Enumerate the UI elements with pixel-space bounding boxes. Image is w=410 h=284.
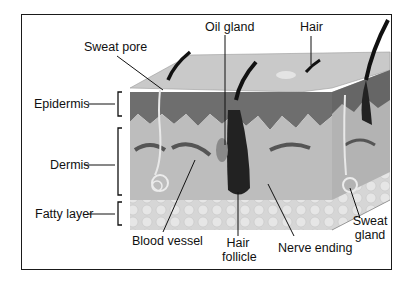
fatty-layer bbox=[130, 200, 332, 230]
label-hair-follicle: Hair follicle bbox=[222, 236, 254, 264]
label-sweat-pore: Sweat pore bbox=[84, 40, 147, 54]
label-dermis: Dermis bbox=[50, 158, 90, 172]
label-sweat-gland: Sweat gland bbox=[352, 214, 388, 242]
label-epidermis: Epidermis bbox=[34, 97, 90, 111]
label-blood-vessel: Blood vessel bbox=[132, 234, 203, 248]
label-hair: Hair bbox=[300, 20, 323, 34]
label-oil-gland: Oil gland bbox=[205, 20, 254, 34]
label-fatty-layer: Fatty layer bbox=[35, 207, 93, 221]
label-nerve-ending: Nerve ending bbox=[278, 241, 352, 255]
